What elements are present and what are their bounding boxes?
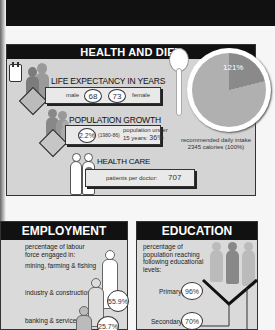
sector-label: industry & construction (25, 289, 91, 297)
employment-panel: EMPLOYMENT percentage of labour force en… (0, 221, 128, 330)
male-label: male (66, 92, 79, 98)
pie-value: 121% (223, 63, 243, 72)
pie-caption-line1: recommended daily intake (177, 137, 255, 144)
life-expectancy-title: LIFE EXPECTANCY IN YEARS (51, 76, 165, 86)
education-level-value: 70% (181, 312, 203, 330)
sector-value: 55.9% (107, 290, 129, 312)
female-label: female (132, 92, 150, 98)
education-panel: EDUCATION percentage of population reach… (136, 221, 258, 330)
patients-label: patients per doctor: (106, 175, 157, 181)
health-diet-panel: HEALTH AND DIET LIFE EXPECTANCY IN YEARS… (6, 44, 256, 196)
population-growth-title: POPULATION GROWTH (69, 115, 161, 125)
calendar-icon (9, 64, 22, 82)
under15-value: 36% (149, 134, 163, 141)
employment-title: EMPLOYMENT (1, 222, 127, 240)
under15-line: 15 years: 36% (123, 134, 163, 141)
infographic-page: HEALTH AND DIET LIFE EXPECTANCY IN YEARS… (0, 0, 275, 330)
under15-age: 15 years: (123, 135, 148, 141)
top-dark-band (0, 0, 275, 26)
pie-caption: recommended daily intake 2345 calories (… (177, 137, 255, 151)
health-care-title: HEALTH CARE (97, 157, 150, 166)
life-expectancy-box: male 68 73 female (45, 87, 161, 104)
female-value: 73 (108, 89, 126, 103)
education-level-value: 96% (181, 282, 203, 300)
patients-value: 707 (168, 173, 181, 182)
growth-rate-value: 2.2% (78, 128, 96, 143)
health-care-box: patients per doctor: 707 (85, 169, 195, 187)
male-value: 68 (84, 89, 102, 103)
under15-label: population under (123, 127, 168, 133)
banker-figure-icon (75, 306, 93, 330)
sector-value: 25.7% (97, 316, 119, 330)
diet-plate-pie (187, 48, 271, 132)
spoon-icon (169, 48, 189, 118)
sector-label: mining, farming & fishing (25, 262, 96, 270)
employment-intro-line1: percentage of labour (25, 243, 85, 251)
growth-period: (1980-86) (98, 132, 120, 138)
under15-box: population under 15 years: 36% (119, 125, 169, 143)
sector-label: banking & services (25, 317, 80, 325)
employment-intro: percentage of labour force engaged in: (25, 243, 85, 258)
education-level-label: Secondary (151, 318, 182, 326)
education-level-label: Primary (159, 288, 181, 296)
pie-caption-line2: 2345 calories (100%) (177, 144, 255, 151)
employment-intro-line2: force engaged in: (25, 251, 85, 259)
